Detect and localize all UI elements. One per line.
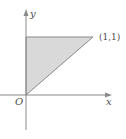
point-label: (1,1): [99, 32, 120, 42]
shaded-triangle-region: [26, 37, 93, 95]
y-axis-label: y: [29, 8, 36, 19]
y-axis-arrow-icon: [24, 9, 29, 16]
origin-label: O: [15, 96, 23, 107]
x-axis-label: x: [106, 96, 112, 107]
region-diagram: y x O (1,1): [0, 0, 126, 139]
